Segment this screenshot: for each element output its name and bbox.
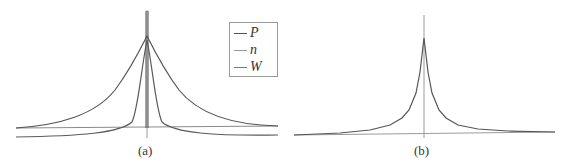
legend-label-w: W — [250, 59, 262, 75]
legend-swatch-n — [234, 50, 247, 51]
legend-item-w: W — [234, 59, 262, 75]
figure-canvas — [0, 0, 565, 167]
legend-label-n: n — [250, 42, 257, 58]
panel-a-caption: (a) — [138, 143, 152, 159]
legend-label-p: P — [250, 25, 259, 41]
panel-b-plot — [294, 15, 555, 138]
panel-b-caption: (b) — [414, 143, 429, 159]
legend-item-n: n — [234, 42, 257, 58]
legend-swatch-w — [234, 67, 247, 68]
legend-swatch-p — [234, 33, 247, 34]
legend: P n W — [229, 22, 278, 77]
legend-item-p: P — [234, 25, 259, 41]
